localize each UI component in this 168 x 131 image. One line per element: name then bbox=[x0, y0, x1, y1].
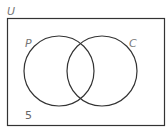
set-c-circle bbox=[67, 36, 137, 106]
set-p-circle bbox=[24, 36, 94, 106]
venn-diagram: U P C 5 bbox=[0, 0, 168, 131]
set-p-label: P bbox=[25, 37, 32, 50]
outside-value: 5 bbox=[25, 109, 32, 122]
set-c-label: C bbox=[129, 37, 137, 50]
universal-set-label: U bbox=[7, 5, 15, 18]
